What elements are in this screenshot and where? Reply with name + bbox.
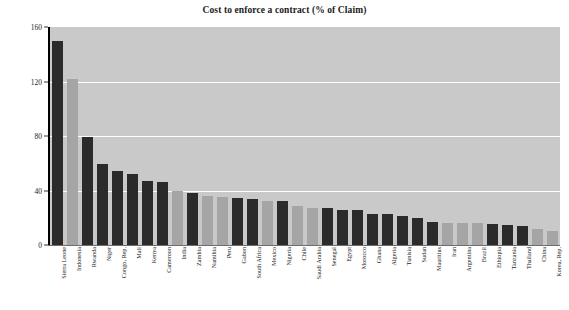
x-axis-tick-label: Namibia — [210, 247, 217, 268]
bar[interactable] — [202, 196, 213, 245]
bar[interactable] — [292, 206, 303, 245]
x-axis-tick-label: Chile — [300, 247, 307, 260]
x-axis-tick-label: Algeria — [390, 247, 397, 266]
y-axis-tick-label: 0 — [38, 241, 42, 250]
bar-slot — [97, 27, 108, 245]
bar-slot — [232, 27, 243, 245]
x-axis-tick-label: Brazil — [480, 247, 487, 262]
y-axis-tick — [44, 136, 48, 137]
y-axis-tick — [44, 245, 48, 246]
bar[interactable] — [472, 223, 483, 245]
bar[interactable] — [187, 193, 198, 245]
bar-slot — [412, 27, 423, 245]
x-axis-tick-label: China — [540, 247, 547, 262]
bar[interactable] — [112, 171, 123, 245]
bar[interactable] — [97, 164, 108, 245]
x-axis-tick-label: India — [180, 247, 187, 260]
bar[interactable] — [217, 197, 228, 245]
bar[interactable] — [412, 218, 423, 245]
x-axis-tick-label: Iran — [450, 247, 457, 257]
bar-slot — [292, 27, 303, 245]
bar-slot — [127, 27, 138, 245]
bar[interactable] — [232, 198, 243, 245]
y-axis-tick-label: 120 — [31, 77, 42, 86]
bar-slot — [277, 27, 288, 245]
bar[interactable] — [157, 182, 168, 245]
chart-container: Cost to enforce a contract (% of Claim) … — [0, 0, 569, 310]
bar-slot — [142, 27, 153, 245]
x-axis-tick-label: Cameroon — [165, 247, 172, 273]
x-axis-tick-label: Ghana — [375, 247, 382, 263]
bar[interactable] — [547, 231, 558, 245]
bar-slot — [397, 27, 408, 245]
bar[interactable] — [247, 199, 258, 245]
x-axis-tick-label: Zambia — [195, 247, 202, 266]
y-axis-tick — [44, 27, 48, 28]
x-axis-tick-label: Sierra Leone — [60, 247, 67, 279]
x-axis-tick-label: Morocco — [360, 247, 367, 269]
x-axis-tick-label: Mali — [135, 247, 142, 259]
x-axis-tick-label: Egypt — [345, 247, 352, 262]
x-axis-tick-label: Korea, Rep. — [555, 247, 562, 277]
bar-slot — [352, 27, 363, 245]
chart-title: Cost to enforce a contract (% of Claim) — [0, 5, 569, 15]
y-axis-tick-label: 80 — [35, 132, 43, 141]
x-axis-tick-label: South Africa — [255, 247, 262, 278]
bar-slot — [217, 27, 228, 245]
x-axis-tick-label: Ethiopia — [495, 247, 502, 268]
bar-slot — [262, 27, 273, 245]
x-axis-tick-label: Niger — [105, 247, 112, 261]
bar[interactable] — [307, 208, 318, 245]
bar[interactable] — [127, 174, 138, 245]
bar-slot — [472, 27, 483, 245]
x-axis-labels: Sierra LeoneIndonesiaRwandaNigerCongo, R… — [50, 247, 560, 310]
x-axis-line — [48, 245, 560, 246]
bar[interactable] — [532, 229, 543, 245]
bar[interactable] — [67, 79, 78, 245]
bar-slot — [337, 27, 348, 245]
bar-slot — [502, 27, 513, 245]
bar[interactable] — [337, 210, 348, 245]
bar[interactable] — [367, 214, 378, 245]
x-axis-tick-label: Gabon — [240, 247, 247, 264]
bar[interactable] — [427, 222, 438, 245]
bar-slot — [367, 27, 378, 245]
x-axis-tick-label: Congo, Rep. — [120, 247, 127, 278]
bar[interactable] — [502, 225, 513, 245]
bar[interactable] — [142, 181, 153, 245]
bar-slot — [172, 27, 183, 245]
bar[interactable] — [262, 201, 273, 245]
bar[interactable] — [82, 137, 93, 245]
bar[interactable] — [517, 226, 528, 245]
bar-slot — [112, 27, 123, 245]
bar[interactable] — [442, 223, 453, 245]
bar-slot — [157, 27, 168, 245]
x-axis-tick-label: Rwanda — [90, 247, 97, 267]
bar[interactable] — [397, 216, 408, 245]
bar-slot — [82, 27, 93, 245]
bar[interactable] — [52, 41, 63, 245]
bar[interactable] — [487, 224, 498, 245]
bar[interactable] — [352, 210, 363, 245]
x-axis-tick-label: Mexico — [270, 247, 277, 266]
bar[interactable] — [457, 223, 468, 245]
bar[interactable] — [382, 214, 393, 245]
x-axis-tick-label: Argentina — [465, 247, 472, 272]
bar-slot — [67, 27, 78, 245]
bar[interactable] — [172, 191, 183, 245]
bar-slot — [457, 27, 468, 245]
bar[interactable] — [277, 201, 288, 245]
x-axis-tick-label: Senegal — [330, 247, 337, 267]
x-axis-tick-label: Peru — [225, 247, 232, 258]
x-axis-tick-label: Indonesia — [75, 247, 82, 271]
x-axis-tick-label: Thailand — [525, 247, 532, 269]
y-axis-tick — [44, 81, 48, 82]
bar[interactable] — [322, 208, 333, 245]
x-axis-tick-label: Kenya — [150, 247, 157, 263]
x-axis-tick-label: Sudan — [420, 247, 427, 262]
y-axis-tick-label: 160 — [31, 23, 42, 32]
bar-slot — [322, 27, 333, 245]
bar-slot — [382, 27, 393, 245]
x-axis-tick-label: Saudi Arabia — [315, 247, 322, 279]
x-axis-tick-label: Tunisia — [405, 247, 412, 265]
